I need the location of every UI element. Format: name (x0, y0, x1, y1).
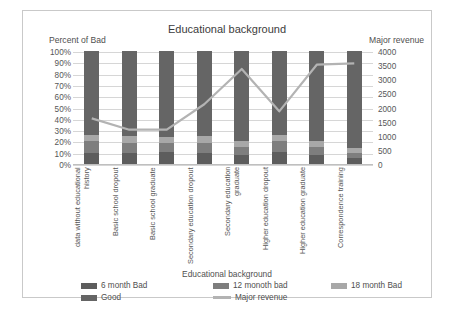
tick-label: 20% (55, 138, 71, 147)
x-axis-category-label: Secondary education graduate (223, 167, 261, 267)
line-series-major-revenue (73, 52, 373, 165)
tick-label: 1000 (378, 132, 396, 141)
tick-label: 100% (50, 48, 71, 57)
tick-label: 2000 (378, 104, 396, 113)
x-axis-category-labels: data without educational historyBasic sc… (73, 167, 373, 267)
x-axis-category-label: Correspondence training (336, 167, 374, 267)
x-axis-category-label: data without educational history (73, 167, 111, 267)
left-axis-title: Percent of Bad (49, 35, 106, 45)
legend-item-label: Major revenue (235, 293, 287, 302)
y-axis-tick-labels: 100%90%80%70%60%50%40%30%20%10%0% (43, 52, 71, 165)
chart-title: Educational background (23, 23, 431, 35)
x-axis-title: Educational background (23, 269, 431, 279)
tick-label: 0% (59, 161, 71, 170)
tick-label: 3000 (378, 76, 396, 85)
legend-item[interactable]: 6 month Bad (81, 281, 147, 290)
tick-label: 0 (378, 161, 383, 170)
legend-swatch-icon (81, 295, 97, 301)
plot-area (73, 52, 373, 165)
legend-line-icon (213, 296, 231, 299)
tick-label: 1500 (378, 118, 396, 127)
tick-label: 60% (55, 93, 71, 102)
tick-label: 80% (55, 70, 71, 79)
legend-item[interactable]: 12 monoth bad (213, 281, 288, 290)
x-axis-category-label: Basic school dropout (111, 167, 149, 267)
legend-swatch-icon (213, 283, 229, 289)
tick-label: 90% (55, 59, 71, 68)
tick-label: 2500 (378, 90, 396, 99)
x-axis-category-label: Basic school graduate (148, 167, 186, 267)
legend-swatch-icon (81, 283, 97, 289)
tick-label: 30% (55, 127, 71, 136)
x-axis-category-label: Secondary education dropout (186, 167, 224, 267)
legend-item-label: Good (101, 293, 121, 302)
tick-label: 10% (55, 149, 71, 158)
y2-axis-tick-labels: 40003500300025002000150010005000 (378, 52, 412, 165)
tick-label: 500 (378, 146, 392, 155)
right-axis-title: Major revenue (369, 35, 424, 45)
chart-legend: 6 month Bad12 monoth bad18 month BadGood… (63, 281, 393, 305)
tick-label: 50% (55, 104, 71, 113)
major-revenue-line (92, 63, 355, 129)
legend-swatch-icon (331, 283, 347, 289)
x-axis-category-label: Higher education dropout (261, 167, 299, 267)
legend-item[interactable]: Good (81, 293, 121, 302)
tick-label: 70% (55, 81, 71, 90)
legend-item[interactable]: 18 month Bad (331, 281, 402, 290)
legend-item-label: 12 monoth bad (233, 281, 288, 290)
tick-label: 4000 (378, 48, 396, 57)
chart-frame: Percent of Bad Major revenue Educational… (22, 10, 432, 298)
x-axis-category-label: Higher education graduate (298, 167, 336, 267)
tick-label: 3500 (378, 62, 396, 71)
legend-item-label: 18 month Bad (351, 281, 402, 290)
legend-item[interactable]: Major revenue (213, 293, 287, 302)
legend-item-label: 6 month Bad (101, 281, 147, 290)
tick-label: 40% (55, 115, 71, 124)
